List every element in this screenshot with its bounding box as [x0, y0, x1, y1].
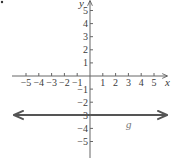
- x-tick-label: 1: [100, 77, 105, 88]
- y-tick-label: 2: [83, 44, 88, 55]
- x-tick-label: 2: [113, 77, 118, 88]
- x-tick-label: −4: [33, 77, 44, 88]
- y-axis-label: y: [78, 0, 84, 9]
- y-tick-label: 4: [83, 18, 88, 29]
- y-tick-label: −5: [77, 136, 88, 147]
- y-tick-label: 3: [83, 31, 88, 42]
- x-tick-label: −2: [59, 77, 70, 88]
- x-tick-label: −5: [21, 77, 32, 88]
- coordinate-plane: −5−4−3−2−112345 54321−1−2−3−4−5 x y g: [0, 0, 187, 164]
- y-tick-label: −1: [77, 84, 88, 95]
- x-tick-label: 3: [126, 77, 131, 88]
- y-tick-label: −2: [77, 97, 88, 108]
- y-tick-label: −4: [77, 123, 88, 134]
- y-tick-label: 1: [83, 57, 88, 68]
- x-tick-label: −3: [46, 77, 57, 88]
- x-tick-label: 5: [152, 77, 157, 88]
- x-axis-label: x: [164, 76, 170, 88]
- x-axis-ticks: −5−4−3−2−112345: [21, 73, 157, 88]
- line-g-label: g: [126, 118, 132, 130]
- x-tick-label: 4: [139, 77, 144, 88]
- bullet-dot: [1, 1, 3, 3]
